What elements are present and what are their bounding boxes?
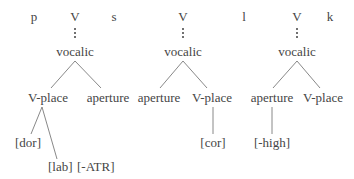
dotted-association-line-2	[182, 28, 184, 41]
vplace-node-3: V-place	[303, 91, 343, 105]
branch-vocalic-vplace-2	[183, 61, 207, 88]
branch-vplace-lab	[42, 107, 57, 159]
segment-k: k	[327, 10, 334, 24]
dotted-association-line-1	[74, 28, 76, 41]
vocalic-node-3: vocalic	[278, 45, 316, 59]
vocalic-node-1: vocalic	[56, 45, 94, 59]
segment-s: s	[111, 10, 116, 24]
branch-vocalic-aperture-3	[273, 61, 297, 88]
branch-vplace-dor	[31, 107, 42, 134]
segment-v-3: V	[292, 10, 301, 24]
segment-v-1: V	[70, 10, 79, 24]
branch-vocalic-aperture-2	[160, 61, 183, 88]
segment-p: p	[31, 10, 38, 24]
aperture-node-2: aperture	[138, 91, 181, 105]
feature-dor: [dor]	[15, 136, 41, 150]
feature-cor: [cor]	[200, 136, 225, 150]
branch-vocalic-vplace-1	[51, 61, 75, 88]
branch-vocalic-aperture-1	[75, 61, 101, 88]
branch-vocalic-vplace-3	[297, 61, 320, 88]
vocalic-node-2: vocalic	[164, 45, 202, 59]
segment-v-2: V	[178, 10, 187, 24]
segment-l: l	[242, 10, 246, 24]
feature-atr: [-ATR]	[77, 160, 115, 174]
aperture-node-3: aperture	[251, 91, 294, 105]
feature-high: [-high]	[254, 136, 290, 150]
feature-lab: [lab]	[48, 160, 73, 174]
dotted-association-line-3	[296, 28, 298, 41]
vplace-node-1: V-place	[28, 91, 68, 105]
aperture-node-1: aperture	[87, 91, 130, 105]
vplace-node-2: V-place	[192, 91, 232, 105]
